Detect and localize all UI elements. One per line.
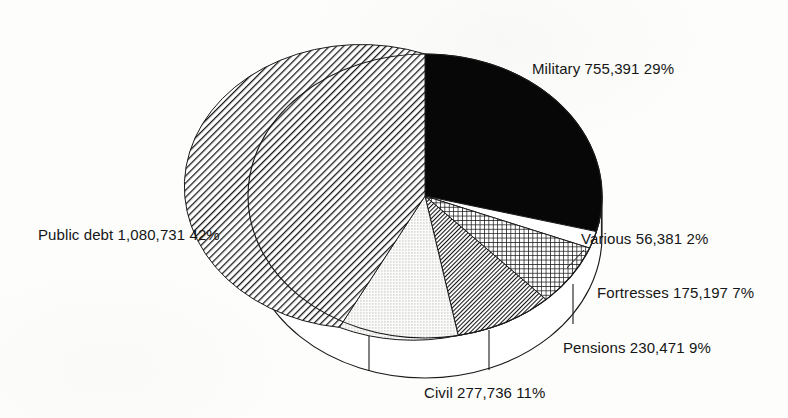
- slice-label-various: Various 56,381 2%: [581, 231, 708, 246]
- slice-label-public-debt: Public debt 1,080,731 42%: [38, 227, 220, 242]
- slice-label-civil: Civil 277,736 11%: [424, 385, 546, 400]
- slice-label-fortresses: Fortresses 175,197 7%: [597, 285, 754, 300]
- pie-chart-figure: Military 755,391 29% Various 56,381 2% F…: [0, 0, 788, 418]
- pie-slices: [184, 44, 602, 340]
- slice-label-pensions: Pensions 230,471 9%: [563, 340, 711, 355]
- slice-label-military: Military 755,391 29%: [532, 61, 674, 76]
